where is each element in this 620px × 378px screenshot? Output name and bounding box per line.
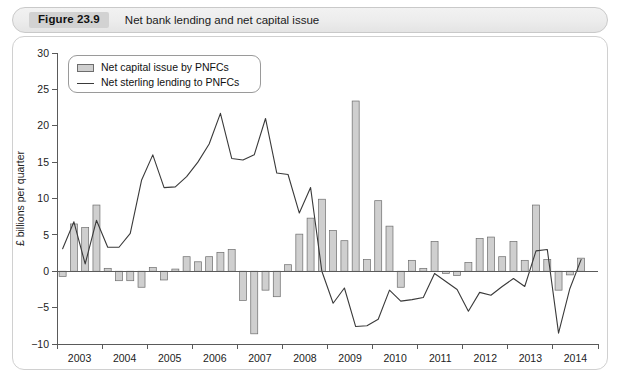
y-tick-label: −10 (31, 338, 49, 350)
bar (115, 271, 122, 280)
bar (476, 239, 483, 272)
bar (307, 218, 314, 271)
bar (375, 201, 382, 272)
bar (341, 241, 348, 272)
y-tick-label: 25 (37, 83, 49, 95)
x-tick-label: 2004 (113, 352, 137, 364)
bar (138, 271, 145, 287)
bar (82, 228, 89, 272)
x-tick-label: 2005 (158, 352, 182, 364)
bar (228, 249, 235, 271)
y-tick-label: 20 (37, 119, 49, 131)
bar (318, 199, 325, 271)
x-tick-label: 2012 (474, 352, 498, 364)
bar (521, 260, 528, 271)
legend-line-swatch-icon (77, 79, 94, 87)
y-tick-label: 5 (43, 229, 49, 241)
bar (161, 271, 168, 280)
legend-bar-label: Net capital issue by PNFCs (101, 62, 229, 73)
bar (431, 241, 438, 271)
y-tick-label: 15 (37, 156, 49, 168)
figure-container: Figure 23.9 Net bank lending and net cap… (0, 0, 620, 378)
x-tick-label: 2006 (203, 352, 227, 364)
bar (183, 257, 190, 272)
bar (194, 262, 201, 271)
chart-legend: Net capital issue by PNFCs Net sterling … (68, 55, 261, 93)
bar (296, 234, 303, 271)
bar (59, 271, 66, 276)
y-tick-label: −5 (37, 301, 49, 313)
x-axis-ticks: 2003200420052006200720082009201020112012… (57, 344, 598, 364)
bar (206, 257, 213, 272)
bar (386, 226, 393, 271)
y-tick-label: 30 (37, 47, 49, 59)
bar (149, 268, 156, 272)
x-tick-label: 2003 (68, 352, 92, 364)
y-axis-label: £ billions per quarter (14, 150, 26, 246)
x-tick-label: 2007 (248, 352, 272, 364)
bar (262, 271, 269, 290)
x-tick-label: 2009 (338, 352, 362, 364)
bar (566, 271, 573, 275)
x-tick-label: 2011 (429, 352, 452, 364)
bar (465, 263, 472, 272)
bar (273, 271, 280, 296)
legend-line-label: Net sterling lending to PNFCs (101, 77, 239, 88)
bar (510, 241, 517, 271)
bar (285, 265, 292, 272)
bar (409, 260, 416, 271)
bar (127, 271, 134, 280)
bar (239, 271, 246, 300)
bar (487, 237, 494, 271)
x-tick-label: 2013 (519, 352, 543, 364)
x-tick-label: 2014 (564, 352, 588, 364)
legend-entry-bar: Net capital issue by PNFCs (77, 60, 260, 75)
bar (499, 257, 506, 272)
bar (330, 231, 337, 272)
bar (251, 271, 258, 334)
bar (93, 205, 100, 271)
bar (533, 205, 540, 271)
y-axis-ticks: −10−5051015202530 (31, 47, 57, 350)
bar (352, 101, 359, 271)
bar (454, 271, 461, 275)
y-tick-label: 0 (43, 265, 49, 277)
y-tick-label: 10 (37, 192, 49, 204)
bar (555, 271, 562, 290)
bar-series-net-capital-issue (59, 101, 584, 334)
x-tick-label: 2010 (383, 352, 407, 364)
bar (363, 260, 370, 272)
legend-entry-line: Net sterling lending to PNFCs (77, 75, 260, 90)
x-tick-label: 2008 (293, 352, 317, 364)
bar (397, 271, 404, 287)
bar (217, 252, 224, 271)
legend-bar-swatch-icon (77, 64, 94, 72)
